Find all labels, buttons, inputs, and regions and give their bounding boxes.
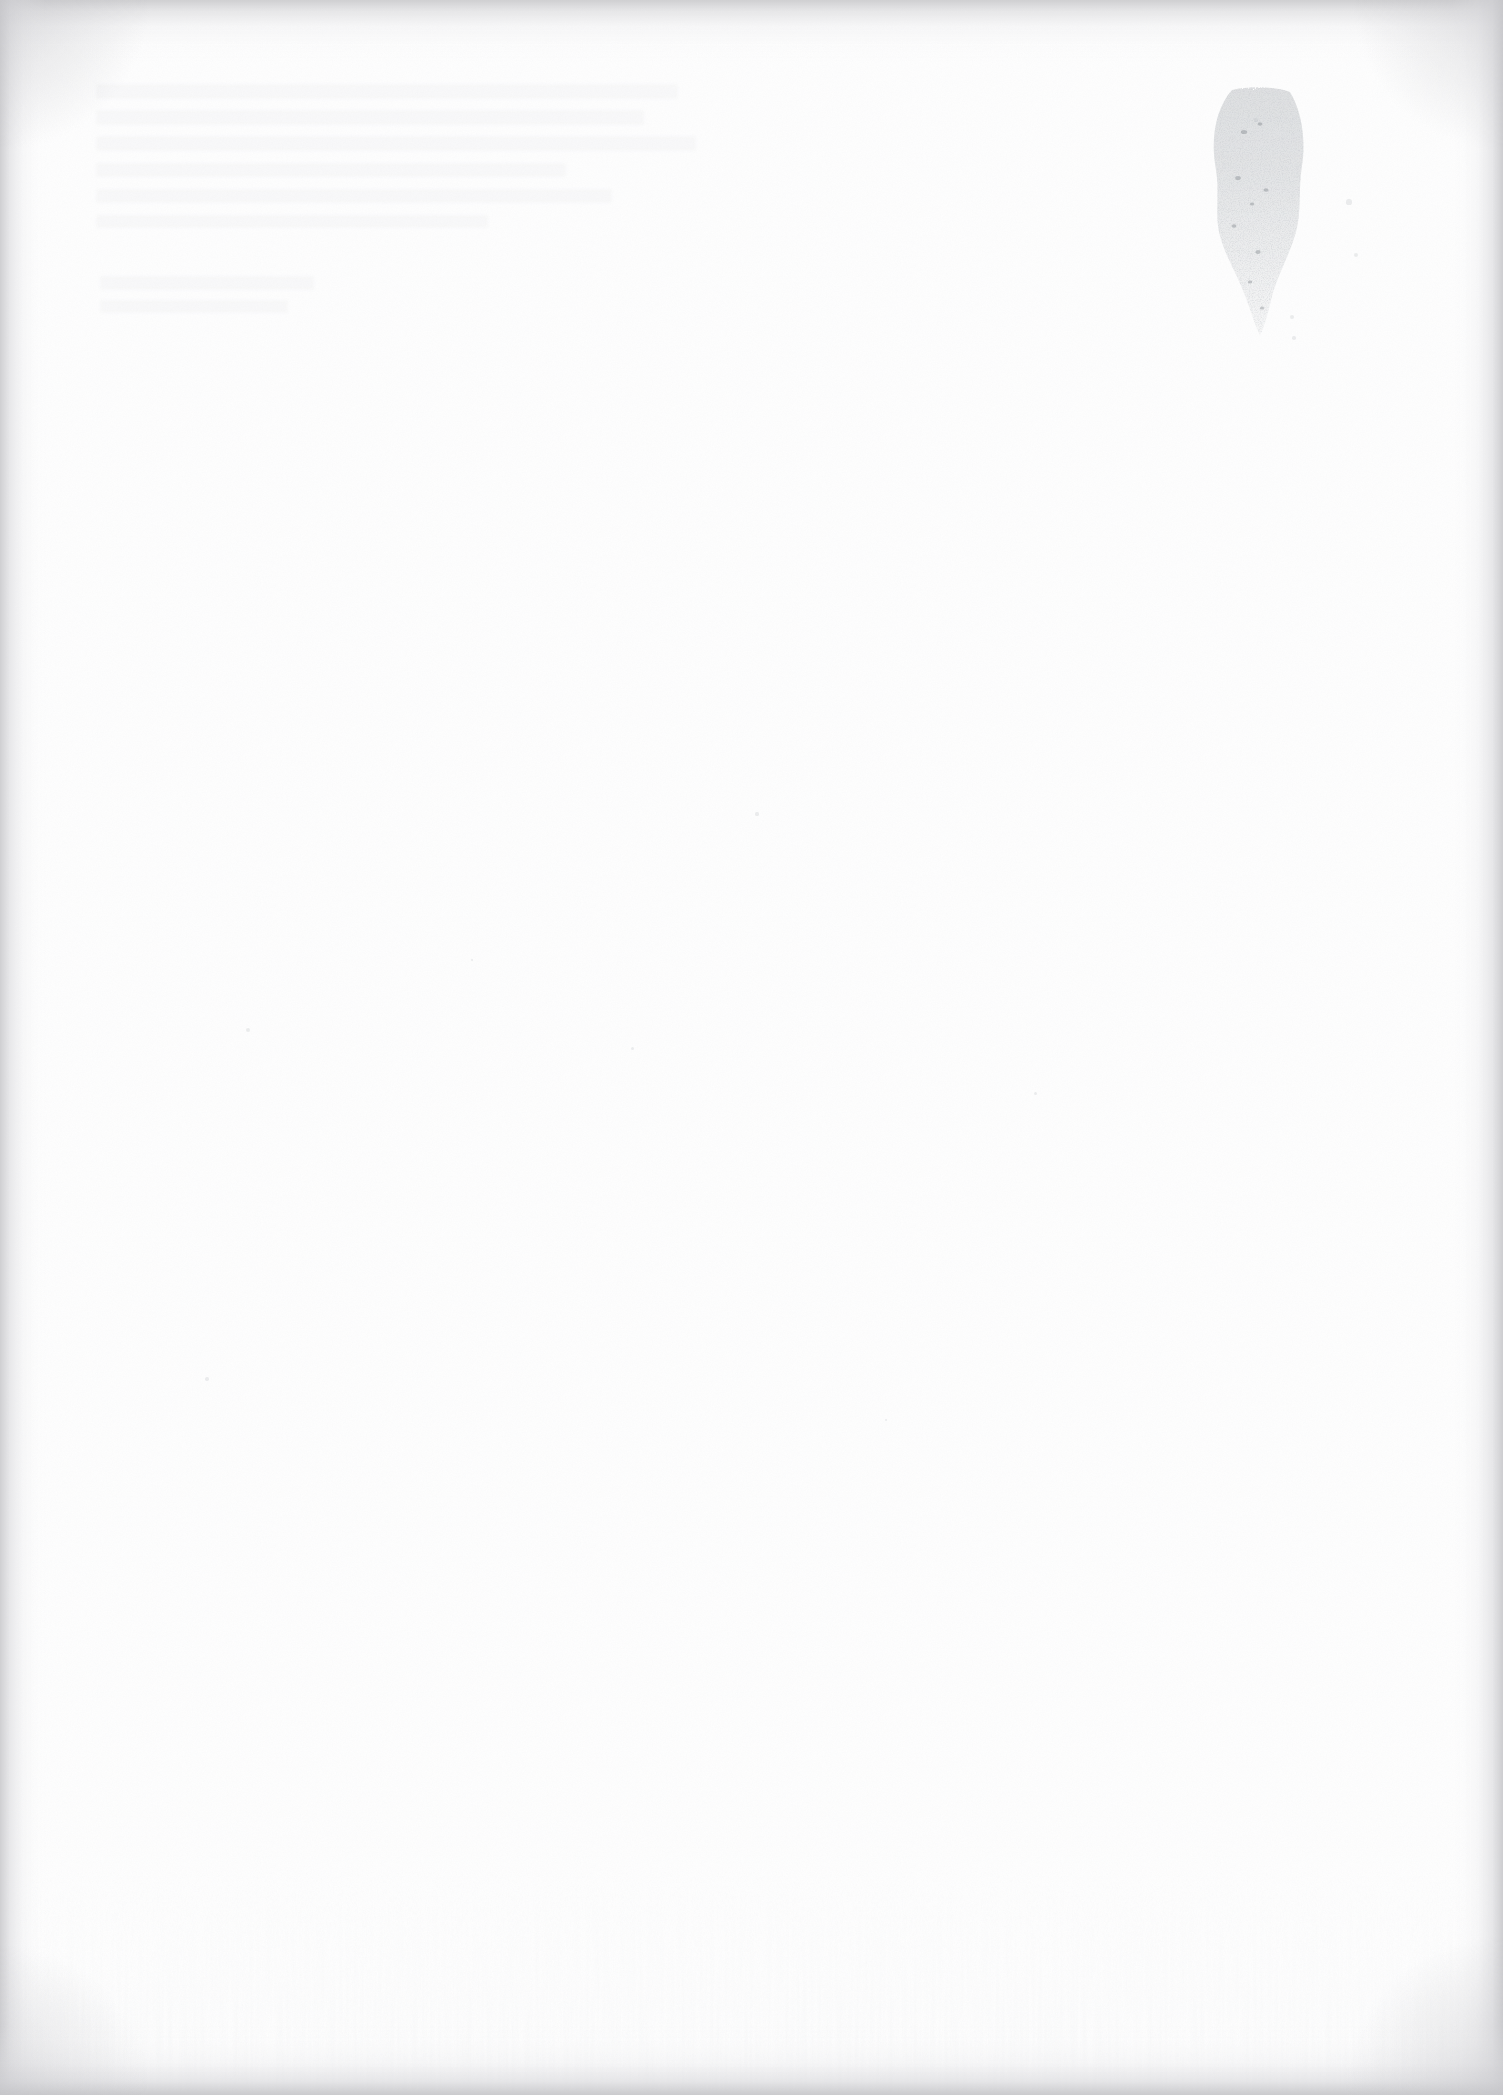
scanned-page [0,0,1503,2095]
edge-shadow-corners [0,0,1503,2095]
